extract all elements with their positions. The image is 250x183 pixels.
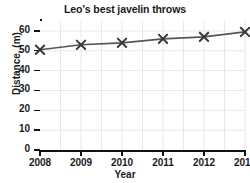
x-axis-line <box>39 150 246 152</box>
chart-title: Leo's best javelin throws <box>0 3 250 15</box>
x-axis-tick-label: 2008 <box>20 157 60 168</box>
y-axis-tick-label: 10 <box>4 123 30 134</box>
y-axis-tick-label: 40 <box>4 64 30 75</box>
plot-svg <box>40 21 245 150</box>
y-axis-tick-label: 50 <box>4 44 30 55</box>
x-axis-title: Year <box>0 169 250 180</box>
y-axis-tick-label: 0 <box>4 143 30 154</box>
y-axis-tick-label: 20 <box>4 103 30 114</box>
x-axis-tick-label: 2012 <box>184 157 224 168</box>
x-axis-tick-label: 2011 <box>143 157 183 168</box>
y-axis-tick-label: 30 <box>4 83 30 94</box>
x-axis-tick-label: 2013 <box>225 157 250 168</box>
y-axis-tick-label: 60 <box>4 24 30 35</box>
x-axis-tick-label: 2010 <box>102 157 142 168</box>
x-axis-tick-label: 2009 <box>61 157 101 168</box>
plot-area <box>40 21 245 150</box>
chart-container: Leo's best javelin throws Distance, (m) … <box>0 0 250 183</box>
